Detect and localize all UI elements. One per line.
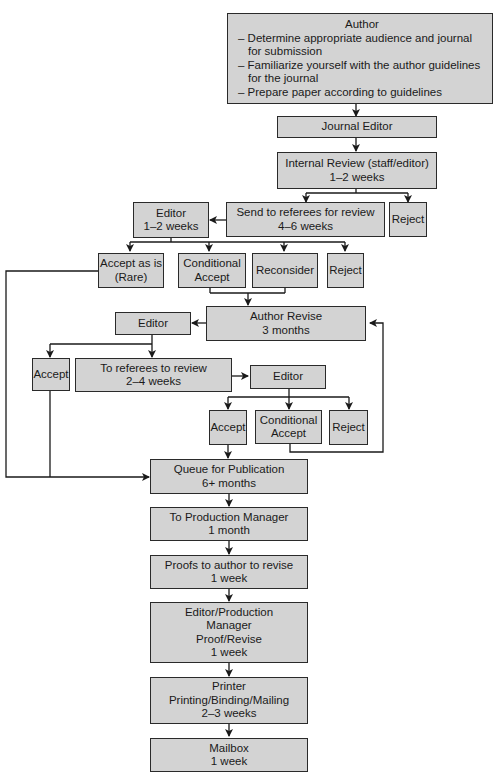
node-label: Printer (212, 680, 246, 694)
node-label: Mailbox (209, 742, 249, 756)
node-label: To Production Manager (170, 511, 289, 525)
node-label: Author Revise (250, 310, 322, 324)
node-duration: 2–3 weeks (202, 707, 257, 721)
send-to-referees-node: Send to referees for review 4–6 weeks (226, 202, 385, 237)
node-duration: 2–4 weeks (126, 375, 181, 389)
journal-editor-node: Journal Editor (277, 116, 437, 138)
queue-for-publication-node: Queue for Publication 6+ months (150, 459, 308, 494)
reject-node-3: Reject (329, 410, 368, 445)
printer-node: Printer Printing/Binding/Mailing 2–3 wee… (150, 677, 308, 724)
proofs-node: Proofs to author to revise 1 week (150, 555, 308, 589)
mailbox-node: Mailbox 1 week (150, 738, 308, 772)
node-label: Reject (332, 421, 365, 435)
node-label: To referees to review (100, 362, 207, 376)
author-step-3: – Prepare paper according to guidelines (238, 86, 486, 100)
node-duration: 1 month (208, 524, 250, 538)
author-title: Author (238, 18, 486, 32)
reject-node-1: Reject (389, 202, 427, 237)
node-duration: 1 week (211, 755, 247, 769)
node-label: Conditional (183, 257, 241, 271)
node-duration: 1–2 weeks (144, 220, 199, 234)
node-duration: 1 week (211, 572, 247, 586)
reject-node-2: Reject (327, 253, 364, 288)
author-step-2: – Familiarize yourself with the author g… (238, 59, 486, 86)
node-duration: 3 months (262, 324, 309, 338)
conditional-accept-node-2: Conditional Accept (255, 410, 322, 444)
node-label: Editor (156, 207, 186, 221)
node-duration: 1–2 weeks (330, 171, 385, 185)
node-label: Accept as is (100, 257, 162, 271)
production-manager-node: To Production Manager 1 month (150, 507, 308, 541)
accept-as-is-node: Accept as is (Rare) (98, 253, 164, 288)
node-label: Reject (392, 213, 425, 227)
node-duration: 4–6 weeks (278, 220, 333, 234)
node-label: Accept (33, 368, 68, 382)
node-label: Journal Editor (322, 120, 393, 134)
accept-node-2: Accept (209, 410, 247, 445)
author-revise-node: Author Revise 3 months (206, 306, 366, 341)
node-label-2: Accept (194, 271, 229, 285)
node-label: Editor (138, 317, 168, 331)
node-label: Internal Review (staff/editor) (285, 157, 429, 171)
internal-review-node: Internal Review (staff/editor) 1–2 weeks (277, 152, 437, 189)
node-label-2: Printing/Binding/Mailing (169, 694, 289, 708)
node-label: Editor/Production (185, 606, 273, 620)
node-label: Send to referees for review (236, 206, 374, 220)
editor-node-2: Editor (115, 312, 191, 335)
author-node: Author – Determine appropriate audience … (227, 13, 493, 104)
editor-node-3: Editor (250, 365, 326, 389)
editor-production-node: Editor/Production Manager Proof/Revise 1… (150, 602, 308, 663)
node-label-3: Proof/Revise (196, 633, 262, 647)
reconsider-node: Reconsider (252, 253, 318, 288)
node-label: Accept (210, 421, 245, 435)
accept-node-1: Accept (32, 358, 70, 391)
node-label: Queue for Publication (174, 463, 285, 477)
node-label: Conditional (260, 414, 318, 428)
author-step-1: – Determine appropriate audience and jou… (238, 32, 486, 59)
editor-node-1: Editor 1–2 weeks (133, 202, 209, 238)
node-label: Editor (273, 370, 303, 384)
node-label-2: Manager (206, 619, 251, 633)
node-label: Proofs to author to revise (165, 559, 293, 573)
node-label: Reconsider (256, 264, 314, 278)
to-referees-node: To referees to review 2–4 weeks (75, 358, 232, 392)
node-duration: 1 week (211, 646, 247, 660)
node-label: Reject (329, 264, 362, 278)
node-label-2: Accept (271, 427, 306, 441)
node-note: (Rare) (115, 271, 148, 285)
node-duration: 6+ months (202, 477, 256, 491)
conditional-accept-node-1: Conditional Accept (178, 253, 246, 288)
